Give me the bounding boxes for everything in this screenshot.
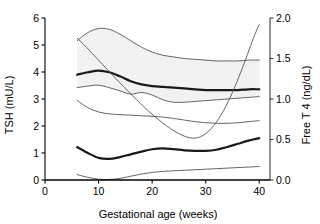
right-axis-tick-label: 2.0 <box>276 12 291 24</box>
right-axis-tick-label: 1.0 <box>276 93 291 105</box>
x-axis-tick-label: 30 <box>200 185 212 197</box>
right-axis-tick-label: 0.0 <box>276 174 291 186</box>
x-axis-tick-label: 0 <box>42 185 48 197</box>
left-axis-tick-label: 2 <box>33 120 39 132</box>
left-axis-tick-label: 4 <box>33 66 39 78</box>
y2-axis-title: Free T 4 (ng/dL) <box>300 65 312 144</box>
left-axis-tick-label: 3 <box>33 93 39 105</box>
x-axis-tick-label: 10 <box>93 185 105 197</box>
left-axis-tick-label: 1 <box>33 147 39 159</box>
right-axis-tick-label: 1.5 <box>276 52 291 64</box>
y-axis-title: TSH (mU/L) <box>3 76 15 135</box>
left-axis-tick-label: 5 <box>33 39 39 51</box>
chart-background <box>0 0 320 224</box>
x-axis-tick-label: 40 <box>253 185 265 197</box>
chart-figure: 0123456 0.00.51.01.52.0 010203040 TSH (m… <box>0 0 320 224</box>
left-axis-tick-label: 6 <box>33 12 39 24</box>
right-axis-tick-label: 0.5 <box>276 133 291 145</box>
x-axis-tick-label: 20 <box>146 185 158 197</box>
x-axis-title: Gestational age (weeks) <box>99 208 218 220</box>
left-axis-tick-label: 0 <box>33 174 39 186</box>
